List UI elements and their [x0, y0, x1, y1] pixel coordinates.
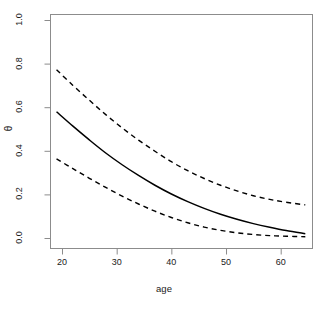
y-tick-label: 1.0: [15, 1, 24, 39]
x-tick-label: 20: [42, 258, 82, 267]
x-axis-title: age: [0, 284, 328, 293]
y-tick-label: 0.0: [15, 219, 24, 257]
x-tick-label: 40: [151, 258, 191, 267]
y-tick-label: 0.8: [15, 44, 24, 82]
y-tick-label: 0.4: [15, 131, 24, 169]
x-tick-label: 60: [261, 258, 301, 267]
chart-figure: 0.00.20.40.60.81.0 2030405060 age θ: [0, 0, 328, 309]
y-tick-label: 0.6: [15, 88, 24, 126]
x-tick-label: 50: [206, 258, 246, 267]
y-tick-label: 0.2: [15, 175, 24, 213]
y-axis-title: θ: [4, 109, 13, 149]
x-tick-label: 30: [97, 258, 137, 267]
